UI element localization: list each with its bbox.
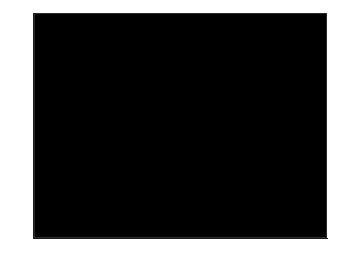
chart-figure xyxy=(0,0,337,262)
stacked-area-svg xyxy=(34,13,327,238)
plot-background xyxy=(34,13,327,238)
y-axis-spine xyxy=(33,13,34,239)
plot-area xyxy=(34,13,327,238)
x-axis-spine xyxy=(33,238,328,239)
